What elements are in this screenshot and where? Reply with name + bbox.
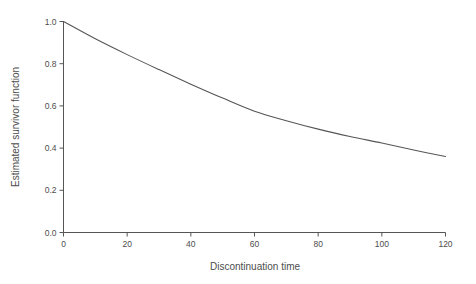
survival-plot-figure: 0204060801001200.00.20.40.60.81.0 Estima… [0, 0, 476, 284]
x-tick-label: 80 [313, 239, 323, 249]
x-tick-label: 60 [250, 239, 260, 249]
survival-curve-chart: 0204060801001200.00.20.40.60.81.0 [0, 0, 476, 284]
survivor-curve-line [64, 22, 446, 157]
y-axis-title: Estimated survivor function [10, 67, 21, 187]
x-tick-label: 100 [375, 239, 389, 249]
y-tick-label: 0.8 [45, 59, 57, 69]
x-tick-label: 0 [61, 239, 66, 249]
x-tick-label: 20 [122, 239, 132, 249]
y-tick-label: 0.6 [45, 101, 57, 111]
y-tick-label: 0.2 [45, 185, 57, 195]
x-axis-title: Discontinuation time [210, 261, 300, 272]
y-tick-label: 1.0 [45, 17, 57, 27]
y-tick-label: 0.0 [45, 228, 57, 238]
y-tick-label: 0.4 [45, 143, 57, 153]
x-tick-label: 120 [438, 239, 452, 249]
x-tick-label: 40 [186, 239, 196, 249]
